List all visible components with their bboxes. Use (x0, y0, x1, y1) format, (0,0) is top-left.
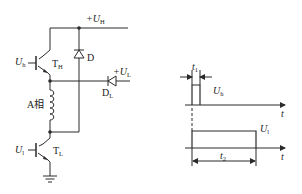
time-axis-label-low: t (281, 152, 284, 162)
supply-low-label: +UL (113, 67, 131, 79)
winding-coil (50, 81, 54, 132)
t2-label: t2 (220, 151, 226, 163)
node-emitter (48, 79, 52, 83)
th-collector-wire (43, 28, 50, 56)
th-input-label: Uh (15, 57, 25, 69)
th-label: TH (52, 59, 63, 71)
diode-d-label: D (87, 53, 94, 63)
node-lower (48, 130, 52, 134)
ul-pulse-label: Ul (260, 124, 269, 136)
tl-label: TL (53, 146, 63, 158)
diode-d-symbol (74, 50, 84, 58)
t1-label: t1 (192, 62, 198, 74)
ground-symbol (43, 176, 57, 182)
diode-dl-label: DL (102, 88, 113, 100)
time-axis-label-high: t (281, 109, 284, 119)
tl-input-label: Ul (15, 145, 24, 157)
supply-high-label: +UH (86, 14, 105, 26)
winding-label: A相 (27, 100, 44, 110)
pulse-high (192, 85, 200, 105)
circuit-and-timing-diagram (0, 0, 302, 194)
pulse-low (192, 131, 256, 148)
node-top (77, 26, 81, 30)
uh-pulse-label: Uh (213, 86, 223, 98)
